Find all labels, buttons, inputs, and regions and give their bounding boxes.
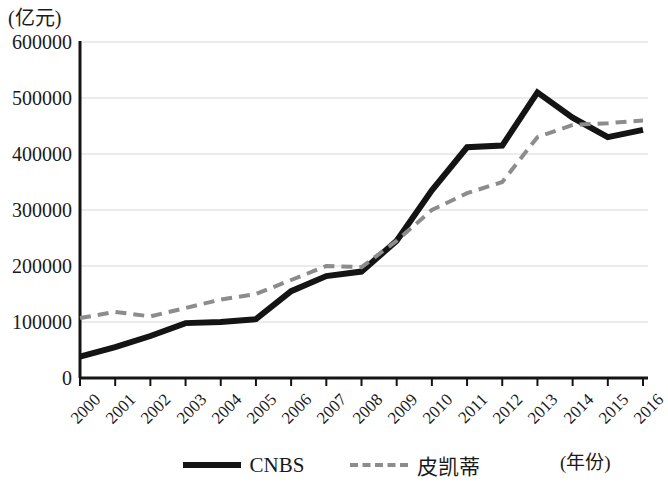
data-series-layer bbox=[80, 92, 643, 356]
chart-legend: CNBS 皮凯蒂 bbox=[0, 448, 663, 482]
legend-swatch-dashed-icon bbox=[350, 463, 408, 467]
y-axis-unit-label: (亿元) bbox=[8, 2, 61, 31]
legend-label-piketty: 皮凯蒂 bbox=[417, 450, 480, 480]
y-axis-tick-label-text: 600000 bbox=[12, 31, 72, 54]
y-axis-tick-label-text: 500000 bbox=[12, 87, 72, 110]
y-axis-tick-label-text: 300000 bbox=[12, 199, 72, 222]
y-axis-tick-label-text: 200000 bbox=[12, 255, 72, 278]
legend-swatch-solid-icon bbox=[183, 462, 241, 468]
y-axis-tick-label-text: 0 bbox=[62, 367, 72, 390]
y-axis-tick-label-text: 100000 bbox=[12, 311, 72, 334]
y-axis-tick-label-text: 400000 bbox=[12, 143, 72, 166]
legend-item-piketty: 皮凯蒂 bbox=[350, 450, 480, 480]
gridlines bbox=[80, 42, 648, 322]
legend-label-cnbs: CNBS bbox=[250, 453, 305, 478]
legend-item-cnbs: CNBS bbox=[183, 453, 305, 478]
